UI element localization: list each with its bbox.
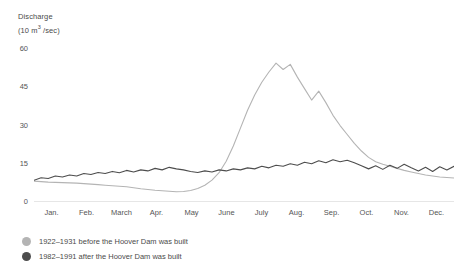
y-tick-label: 30 [6,121,28,130]
chart-svg [34,44,454,202]
y-tick-label: 0 [6,197,28,206]
x-tick-label: June [207,208,247,217]
series-line-2 [34,160,454,181]
x-tick-label: Jan. [32,208,72,217]
x-tick-label: Dec. [417,208,457,217]
x-tick-label: Sep. [312,208,352,217]
plot-area [34,44,454,202]
x-tick-label: July [242,208,282,217]
y-axis-title-line1: Discharge [18,12,53,21]
y-axis-title-line2: (10 m3 /sec) [18,24,60,35]
legend-item: 1982–1991 after the Hoover Dam was built [22,249,188,264]
legend-item: 1922–1931 before the Hoover Dam was buil… [22,234,188,249]
x-tick-label: Aug. [277,208,317,217]
x-tick-label: Oct. [347,208,387,217]
legend-label: 1922–1931 before the Hoover Dam was buil… [39,237,188,246]
x-tick-label: Nov. [382,208,422,217]
y-tick-label: 45 [6,82,28,91]
chart-figure: Discharge (10 m3 /sec) 015304560 Jan.Feb… [0,0,475,279]
y-axis-unit-post: /sec) [41,26,60,35]
y-tick-label: 60 [6,44,28,53]
legend-swatch-icon [22,237,31,246]
x-tick-label: May [172,208,212,217]
y-axis-unit-pre: (10 m [18,26,38,35]
legend-swatch-icon [22,252,31,261]
chart-legend: 1922–1931 before the Hoover Dam was buil… [22,234,188,264]
x-tick-label: March [102,208,142,217]
y-tick-label: 15 [6,159,28,168]
x-tick-label: Apr. [137,208,177,217]
x-tick-label: Feb. [67,208,107,217]
legend-label: 1982–1991 after the Hoover Dam was built [39,252,182,261]
